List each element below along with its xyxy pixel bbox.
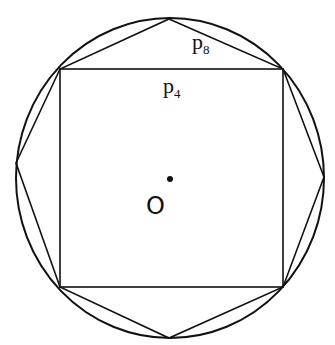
label-p8-base: p <box>192 29 203 54</box>
label-p4-base: p <box>163 73 174 98</box>
label-p4: p4 <box>163 73 181 99</box>
label-p4-subscript: 4 <box>174 86 181 101</box>
diagram-canvas <box>0 0 335 345</box>
center-point <box>167 176 173 182</box>
label-center-o: O <box>146 192 165 220</box>
label-p8: p8 <box>192 29 210 55</box>
label-p8-subscript: 8 <box>203 42 210 57</box>
